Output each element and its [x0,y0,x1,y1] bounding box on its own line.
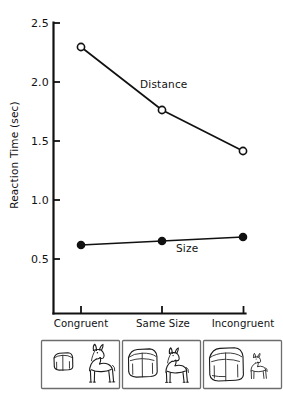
y-tick-label-2-0: 2.0 [31,76,49,89]
size-point-same-size [158,237,165,244]
x-axis: Congruent Same Size Incongruent [54,306,275,329]
x-tick-label-incongruent: Incongruent [212,318,275,329]
stimulus-box-incongruent-frame [204,341,282,389]
distance-series-label: Distance [140,78,188,90]
stimulus-box-same-size-frame [123,341,201,389]
series-size: Size [77,233,246,254]
size-series-label: Size [176,242,198,254]
stimulus-box-same-size [123,341,201,389]
distance-line [81,47,243,151]
y-axis-title: Reaction Time (sec) [8,101,20,209]
y-tick-label-2-5: 2.5 [31,17,49,30]
stimulus-box-congruent [42,341,120,389]
figure-container: 2.5 2.0 1.5 1.0 0.5 Reaction Time (sec) … [0,0,283,396]
stimulus-panels [42,341,282,389]
distance-point-same-size [158,106,165,113]
y-tick-label-0-5: 0.5 [31,253,49,266]
series-distance: Distance [77,43,246,154]
size-point-incongruent [239,233,246,240]
stimulus-box-incongruent [204,341,282,389]
distance-point-congruent [77,43,84,50]
y-tick-label-1-0: 1.0 [31,194,49,207]
y-axis: 2.5 2.0 1.5 1.0 0.5 Reaction Time (sec) [8,17,60,314]
distance-point-incongruent [239,147,246,154]
x-tick-label-congruent: Congruent [54,318,109,329]
x-tick-label-same-size: Same Size [136,318,190,329]
y-tick-label-1-5: 1.5 [31,135,49,148]
reaction-time-line-chart: 2.5 2.0 1.5 1.0 0.5 Reaction Time (sec) … [0,0,283,396]
size-point-congruent [77,241,84,248]
